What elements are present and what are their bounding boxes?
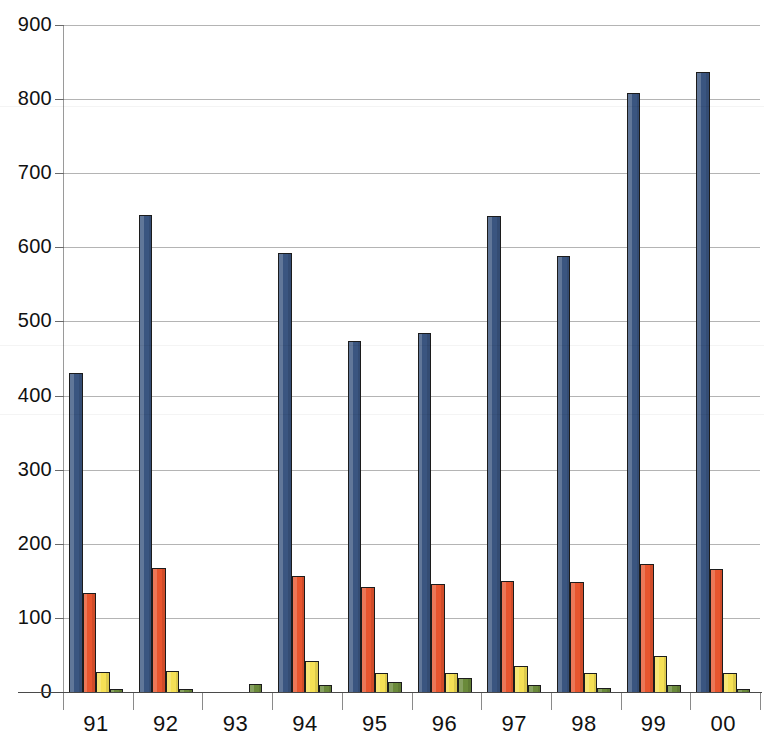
bar-shadow — [706, 73, 709, 692]
x-axis-label-92: 92 — [153, 712, 178, 736]
bar-series-1-94 — [278, 253, 292, 692]
bar-series-1-95 — [348, 341, 362, 692]
bar-highlight — [362, 588, 366, 692]
y-axis-label: 600 — [4, 236, 52, 256]
bar-series-4-96 — [458, 678, 472, 692]
bar-series-3-96 — [445, 673, 459, 692]
bar-series-1-99 — [627, 93, 641, 692]
x-axis-label-91: 91 — [83, 712, 108, 736]
bar-group — [690, 25, 760, 692]
bar-highlight — [502, 582, 506, 692]
bar-shadow — [79, 374, 82, 692]
bar-highlight — [167, 672, 171, 692]
bar-highlight — [389, 683, 393, 692]
bar-highlight — [70, 374, 74, 692]
bar-series-4-95 — [388, 682, 402, 692]
bar-series-2-96 — [431, 584, 445, 692]
x-axis-tick — [760, 693, 761, 710]
bar-shadow — [468, 679, 471, 692]
bar-group — [412, 25, 482, 692]
bar-series-1-00 — [696, 72, 710, 692]
bar-series-3-92 — [166, 671, 180, 692]
bar-shadow — [733, 674, 736, 692]
x-axis-label-00: 00 — [711, 712, 736, 736]
x-axis-tick — [412, 693, 413, 710]
bar-series-3-94 — [305, 661, 319, 692]
y-axis-label: 700 — [4, 162, 52, 182]
bar-highlight — [515, 667, 519, 692]
bar-highlight — [84, 594, 88, 692]
bar-shadow — [288, 254, 291, 692]
bar-shadow — [524, 667, 527, 692]
bar-shadow — [454, 674, 457, 692]
bar-group — [621, 25, 691, 692]
bar-highlight — [446, 674, 450, 692]
bar-series-3-91 — [96, 672, 110, 692]
bar-shadow — [315, 662, 318, 692]
bar-highlight — [655, 657, 659, 692]
bar-highlight — [711, 570, 715, 692]
bar-series-3-99 — [654, 656, 668, 692]
bar-series-1-92 — [139, 215, 153, 692]
bar-series-3-98 — [584, 673, 598, 692]
bar-shadow — [106, 673, 109, 692]
bar-highlight — [97, 673, 101, 692]
bar-shadow — [92, 594, 95, 692]
bar-series-2-98 — [570, 582, 584, 692]
y-axis-label: 500 — [4, 310, 52, 330]
bar-series-3-95 — [375, 673, 389, 692]
bar-groups — [63, 25, 760, 692]
bar-highlight — [585, 674, 589, 692]
bar-shadow — [441, 585, 444, 692]
bar-highlight — [697, 73, 701, 692]
bar-shadow — [511, 582, 514, 692]
bar-shadow — [149, 216, 152, 692]
bar-highlight — [293, 577, 297, 692]
bar-shadow — [567, 257, 570, 693]
bar-shadow — [497, 217, 500, 692]
bar-highlight — [558, 257, 562, 693]
x-axis-label-93: 93 — [223, 712, 248, 736]
bar-series-2-97 — [501, 581, 515, 692]
x-axis-label-96: 96 — [432, 712, 457, 736]
bar-shadow — [664, 657, 667, 692]
bar-series-4-94 — [319, 685, 333, 692]
bar-highlight — [432, 585, 436, 692]
bar-highlight — [724, 674, 728, 692]
bar-shadow — [358, 342, 361, 692]
bar-series-2-00 — [710, 569, 724, 692]
y-axis-labels: 9008007006005004003002001000 — [0, 0, 52, 750]
bar-highlight — [571, 583, 575, 692]
x-axis-label-99: 99 — [641, 712, 666, 736]
bar-highlight — [250, 685, 254, 692]
x-axis-tick — [551, 693, 552, 710]
bar-shadow — [385, 674, 388, 692]
bar-shadow — [720, 570, 723, 692]
y-axis-label: 900 — [4, 14, 52, 34]
bar-series-1-97 — [487, 216, 501, 692]
x-axis-tick — [63, 693, 64, 710]
bar-highlight — [628, 94, 632, 692]
bar-series-4-93 — [249, 684, 263, 692]
x-axis-tick — [342, 693, 343, 710]
y-axis-label: 800 — [4, 88, 52, 108]
bar-group — [63, 25, 133, 692]
bar-shadow — [398, 683, 401, 692]
x-axis-label-95: 95 — [362, 712, 387, 736]
bar-series-4-99 — [667, 685, 681, 692]
bar-series-1-98 — [557, 256, 571, 693]
bar-series-1-96 — [418, 333, 432, 692]
bar-group — [133, 25, 203, 692]
x-axis-tick — [272, 693, 273, 710]
bar-shadow — [650, 565, 653, 692]
x-axis-tick — [621, 693, 622, 710]
x-axis-line — [18, 692, 762, 693]
bar-highlight — [140, 216, 144, 692]
bar-group — [551, 25, 621, 692]
bar-shadow — [176, 672, 179, 692]
bar-shadow — [427, 334, 430, 692]
bar-highlight — [349, 342, 353, 692]
bar-highlight — [376, 674, 380, 692]
bar-series-3-97 — [514, 666, 528, 692]
bar-series-4-97 — [528, 685, 542, 692]
